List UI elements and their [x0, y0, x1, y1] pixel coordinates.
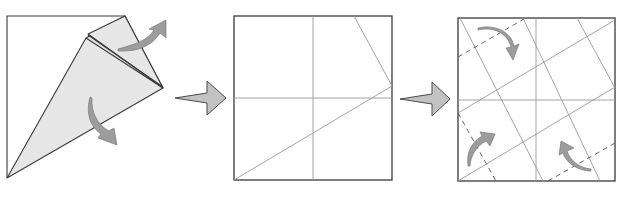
- origami-diagram: [0, 0, 619, 204]
- panel-step-3: [458, 18, 615, 181]
- diagram-canvas: [0, 0, 619, 204]
- kite-body: [7, 16, 163, 178]
- panel-step-1: [7, 16, 166, 178]
- next-step-arrow-icon: [175, 81, 226, 115]
- panel-step-2: [234, 16, 392, 180]
- next-step-arrow-icon: [400, 82, 450, 116]
